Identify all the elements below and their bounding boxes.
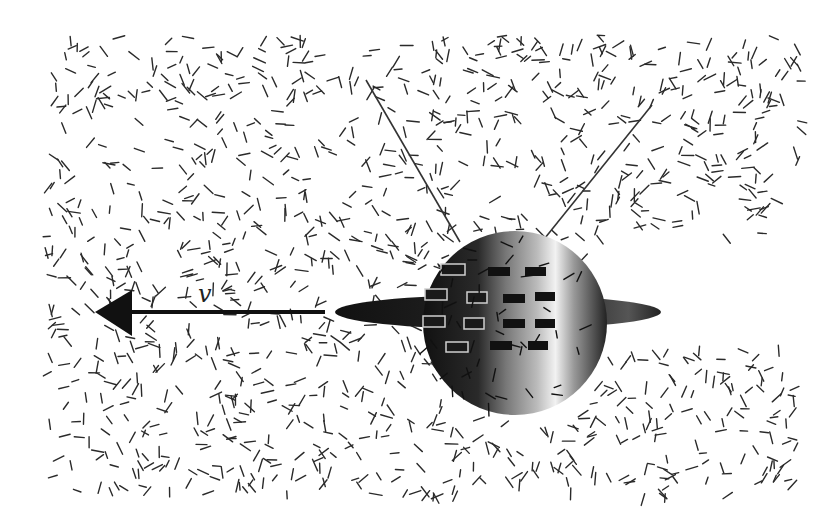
velocity-label: v [198,280,212,308]
antennas [366,80,652,242]
particle-field [43,35,807,505]
diagram-canvas: v [0,0,835,529]
diagram-svg [0,0,835,529]
